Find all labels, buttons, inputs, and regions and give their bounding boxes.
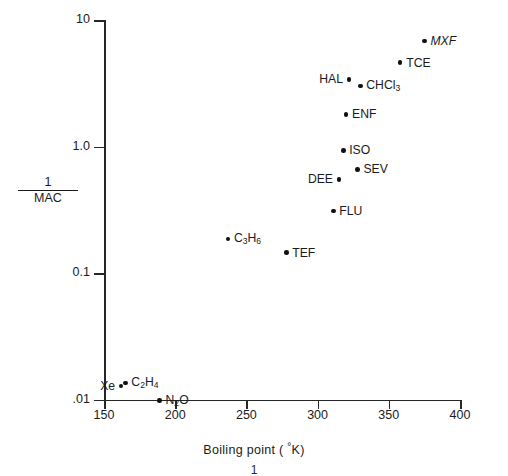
data-point-label-FLU: FLU [339,205,362,217]
y-tick-.01 [94,400,104,402]
y-tick-label-.01: .01 [46,393,90,406]
data-point-TEF [284,250,289,255]
data-point-C2H4 [123,381,128,386]
x-tick-label-200: 200 [150,409,200,422]
scatter-plot-figure: 101.00.1.01 150200250300350400 MXFTCEHAL… [0,0,508,476]
data-point-label-C2H4: C2H4 [131,376,158,390]
data-point-CHCl3 [358,84,363,89]
data-point-ENF [344,112,349,117]
data-point-label-CHCl3: CHCl3 [366,79,400,93]
data-point-MXF [422,39,427,44]
data-point-label-DEE: DEE [308,173,333,185]
data-point-label-ISO: ISO [349,144,370,156]
data-point-label-MXF: MXF [430,35,456,47]
y-axis-title: 1 MAC [18,176,78,205]
y-tick-label-0.1: 0.1 [46,266,90,279]
y-axis-line [104,20,106,400]
y-tick-label-1.0: 1.0 [46,140,90,153]
data-point-SEV [355,167,360,172]
figure-caption-remnant: 1 [0,464,508,474]
data-point-TCE [398,60,403,65]
x-tick-label-400: 400 [435,409,485,422]
x-tick-label-350: 350 [364,409,414,422]
data-point-ISO [341,148,346,153]
x-tick-label-300: 300 [293,409,343,422]
data-point-N2O [157,398,162,403]
x-axis-title: Boiling point ( °K) [0,441,508,457]
y-tick-1.0 [94,147,104,149]
y-tick-10 [94,20,104,22]
data-point-label-C3H6: C3H6 [234,232,261,246]
x-tick-label-150: 150 [79,409,129,422]
data-point-label-Xe: Xe [100,380,115,392]
data-point-label-HAL: HAL [319,73,343,85]
y-axis-title-denominator: MAC [18,190,78,205]
y-axis-title-numerator: 1 [18,176,78,190]
data-point-Xe [119,384,124,389]
data-point-DEE [337,177,342,182]
data-point-label-N2O: N2O [166,394,189,408]
data-point-label-ENF: ENF [352,108,376,120]
data-point-label-SEV: SEV [363,163,387,175]
data-point-C3H6 [226,237,231,242]
y-tick-0.1 [94,273,104,275]
x-tick-label-250: 250 [221,409,271,422]
data-point-FLU [331,209,336,214]
y-tick-label-10: 10 [46,13,90,26]
data-point-label-TEF: TEF [292,246,315,258]
data-point-label-TCE: TCE [406,57,430,69]
data-point-HAL [347,77,352,82]
